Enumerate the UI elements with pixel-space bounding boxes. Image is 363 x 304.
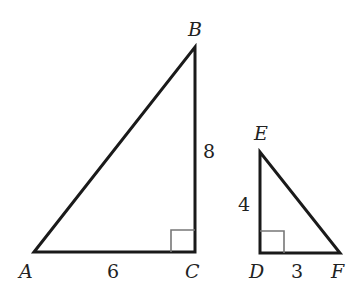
vertex-label-b: B <box>188 20 202 39</box>
triangle-def <box>260 152 340 253</box>
right-angle-marker-d <box>260 231 284 253</box>
vertex-label-e: E <box>254 124 268 143</box>
side-label-ac: 6 <box>107 262 119 281</box>
diagram-canvas <box>0 0 363 304</box>
triangle-abc <box>34 47 195 252</box>
vertex-label-f: F <box>331 262 344 281</box>
vertex-label-a: A <box>19 262 33 281</box>
side-label-df: 3 <box>291 262 303 281</box>
right-angle-marker-c <box>171 230 195 252</box>
side-label-bc: 8 <box>203 142 215 161</box>
side-label-ed: 4 <box>238 195 250 214</box>
vertex-label-c: C <box>185 262 200 281</box>
vertex-label-d: D <box>249 262 264 281</box>
